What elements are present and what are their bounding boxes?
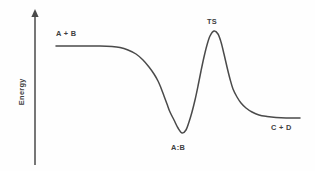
y-axis	[31, 9, 38, 165]
up-arrow-icon	[31, 9, 38, 17]
energy-profile-plot	[0, 0, 315, 171]
products-label: C + D	[271, 124, 292, 131]
energy-diagram: A + B TS A:B C + D Energy	[0, 0, 315, 171]
reaction-energy-curve	[56, 31, 300, 133]
reactants-label: A + B	[56, 30, 76, 37]
transition-state-label: TS	[207, 18, 217, 25]
intermediate-label: A:B	[171, 144, 185, 151]
y-axis-label: Energy	[18, 69, 25, 115]
